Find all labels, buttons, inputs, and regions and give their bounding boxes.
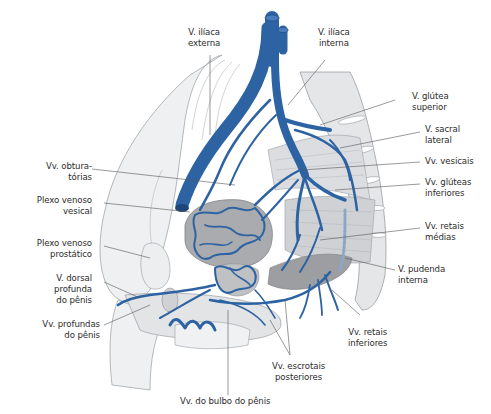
label-plexo-venoso-vesical: Plexo venoso vesical: [37, 195, 92, 217]
label-v-pudenda-interna: V. pudenda interna: [398, 264, 445, 286]
label-vv-retais-medias: Vv. retais médias: [425, 221, 464, 243]
label-vv-profundas-penis: Vv. profundas do pênis: [42, 319, 100, 341]
label-vv-bulbo-penis: Vv. do bulbo do pênis: [180, 396, 270, 407]
label-vv-vesicais: Vv. vesicais: [425, 156, 474, 167]
label-v-iliaca-interna: V. ilíaca interna: [318, 27, 350, 49]
label-vv-obturatorias: Vv. obtura- tórias: [46, 161, 92, 183]
label-vv-retais-inferiores: Vv. retais inferiores: [348, 327, 387, 349]
label-vv-gluteas-inferiores: Vv. glúteas inferiores: [425, 177, 471, 199]
label-vv-escrotais-posteriores: Vv. escrotais posteriores: [272, 361, 325, 383]
label-v-dorsal-profunda-penis: V. dorsal profunda do pênis: [54, 273, 92, 306]
pubic-symphysis: [141, 243, 170, 289]
bladder: [185, 200, 272, 268]
label-plexo-venoso-prostatico: Plexo venoso prostático: [37, 238, 92, 260]
label-v-iliaca-externa: V. ilíaca externa: [188, 27, 220, 49]
label-v-glutea-superior: V. glútea superior: [412, 91, 449, 113]
label-v-sacral-lateral: V. sacral lateral: [425, 124, 460, 146]
pelvic-muscles: [268, 135, 375, 263]
